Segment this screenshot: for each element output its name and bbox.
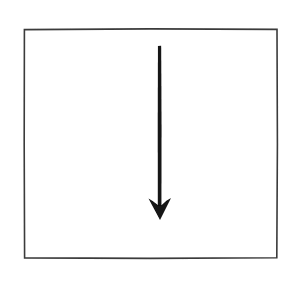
arrow-diagram [0,0,298,282]
frame-group [24,29,277,259]
arrow-shaft [158,46,162,206]
figure-canvas [0,0,298,282]
rectangular-border [24,29,277,259]
